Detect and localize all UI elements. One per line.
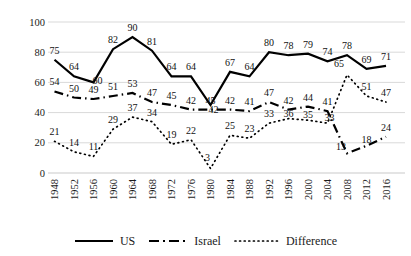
svg-text:44: 44 (303, 92, 313, 103)
svg-text:21: 21 (50, 126, 60, 137)
legend-label-difference: Difference (286, 234, 337, 249)
svg-text:18: 18 (362, 134, 372, 145)
svg-text:69: 69 (362, 54, 372, 65)
line-chart-canvas: 020406080100 194819521956196019641968197… (0, 0, 411, 230)
svg-text:81: 81 (147, 36, 157, 47)
svg-text:42: 42 (209, 104, 219, 115)
data-point-labels: 7564608290816464456764807879747869715450… (50, 22, 392, 163)
svg-text:47: 47 (381, 87, 391, 98)
svg-text:71: 71 (381, 51, 391, 62)
svg-text:74: 74 (323, 46, 333, 57)
series-us-line (55, 37, 387, 105)
svg-text:78: 78 (284, 40, 294, 51)
svg-text:64: 64 (186, 61, 196, 72)
svg-text:36: 36 (284, 108, 294, 119)
svg-text:1952: 1952 (69, 179, 80, 200)
svg-text:80: 80 (35, 47, 46, 58)
svg-text:1976: 1976 (186, 179, 197, 200)
svg-text:51: 51 (108, 81, 118, 92)
svg-text:1984: 1984 (225, 178, 236, 200)
legend-item-israel: Israel (148, 234, 221, 249)
svg-text:3: 3 (205, 152, 210, 163)
svg-text:42: 42 (225, 95, 235, 106)
svg-text:65: 65 (334, 58, 344, 69)
svg-text:41: 41 (245, 96, 255, 107)
svg-text:42: 42 (284, 95, 294, 106)
svg-text:42: 42 (186, 95, 196, 106)
svg-text:23: 23 (245, 123, 255, 134)
svg-text:1956: 1956 (88, 179, 99, 200)
svg-text:1996: 1996 (283, 179, 294, 200)
svg-text:19: 19 (167, 129, 177, 140)
legend-dashdot-line-icon (148, 237, 188, 245)
svg-text:45: 45 (167, 90, 177, 101)
svg-text:25: 25 (225, 120, 235, 131)
svg-text:75: 75 (50, 45, 60, 56)
svg-text:2004: 2004 (322, 178, 333, 200)
svg-text:67: 67 (225, 57, 235, 68)
svg-text:78: 78 (342, 40, 352, 51)
svg-text:1948: 1948 (49, 179, 60, 200)
legend-label-us: US (120, 234, 135, 249)
svg-text:11: 11 (89, 141, 99, 152)
svg-text:1972: 1972 (166, 179, 177, 200)
svg-text:79: 79 (303, 39, 313, 50)
svg-text:41: 41 (323, 96, 333, 107)
svg-text:2012: 2012 (361, 179, 372, 200)
svg-text:50: 50 (69, 83, 79, 94)
svg-text:1988: 1988 (244, 179, 255, 200)
svg-text:54: 54 (50, 76, 60, 87)
svg-text:37: 37 (128, 102, 138, 113)
svg-text:1960: 1960 (108, 179, 119, 200)
svg-text:49: 49 (89, 84, 99, 95)
svg-text:82: 82 (108, 34, 118, 45)
x-axis-tick-labels: 1948195219561960196419681972197619801984… (49, 178, 392, 200)
svg-text:51: 51 (362, 81, 372, 92)
svg-text:24: 24 (381, 122, 391, 133)
svg-text:60: 60 (35, 77, 46, 88)
svg-text:2000: 2000 (303, 179, 314, 200)
svg-text:1964: 1964 (127, 178, 138, 200)
svg-text:40: 40 (35, 107, 46, 118)
svg-text:47: 47 (147, 87, 157, 98)
svg-text:0: 0 (40, 168, 45, 179)
svg-text:20: 20 (35, 137, 46, 148)
svg-text:64: 64 (167, 61, 177, 72)
svg-text:2016: 2016 (381, 179, 392, 200)
svg-text:2008: 2008 (342, 179, 353, 200)
legend-solid-line-icon (74, 237, 114, 245)
svg-text:13: 13 (336, 141, 346, 152)
svg-text:1980: 1980 (205, 179, 216, 200)
legend-item-difference: Difference (234, 234, 337, 249)
svg-text:80: 80 (264, 37, 274, 48)
svg-text:34: 34 (147, 107, 157, 118)
svg-text:64: 64 (245, 61, 255, 72)
svg-text:1968: 1968 (147, 179, 158, 200)
chart-legend: US Israel Difference (0, 230, 411, 252)
chart-figure: 020406080100 194819521956196019641968197… (0, 0, 411, 256)
svg-text:47: 47 (264, 87, 274, 98)
svg-text:14: 14 (69, 137, 79, 148)
svg-text:29: 29 (108, 114, 118, 125)
legend-label-israel: Israel (194, 234, 221, 249)
svg-text:22: 22 (186, 125, 196, 136)
svg-text:53: 53 (128, 78, 138, 89)
svg-text:100: 100 (29, 17, 45, 28)
svg-text:33: 33 (325, 112, 335, 123)
svg-text:90: 90 (128, 22, 138, 33)
svg-text:64: 64 (69, 61, 79, 72)
legend-item-us: US (74, 234, 135, 249)
svg-text:35: 35 (303, 109, 313, 120)
svg-text:1992: 1992 (264, 179, 275, 200)
y-axis-tick-labels: 020406080100 (29, 17, 45, 179)
legend-dotted-line-icon (234, 237, 280, 245)
svg-text:33: 33 (264, 108, 274, 119)
